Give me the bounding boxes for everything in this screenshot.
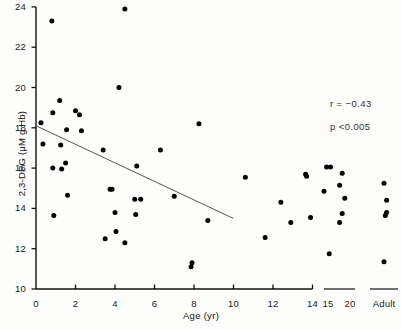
data-point bbox=[278, 200, 283, 205]
x-tick-label-10: 10 bbox=[221, 298, 247, 309]
data-point bbox=[50, 110, 55, 115]
x-tick-label-20: 20 bbox=[337, 298, 363, 309]
correlation-annotation: r = −0.43 bbox=[330, 98, 372, 109]
y-tick-label-16: 16 bbox=[4, 162, 26, 173]
data-point bbox=[205, 218, 210, 223]
x-tick-label-12: 12 bbox=[260, 298, 286, 309]
data-point bbox=[308, 215, 313, 220]
data-point bbox=[134, 164, 139, 169]
data-point bbox=[40, 141, 45, 146]
x-tick-label-8: 8 bbox=[181, 298, 207, 309]
y-tick-label-14: 14 bbox=[4, 202, 26, 213]
data-point bbox=[322, 189, 327, 194]
data-point bbox=[382, 181, 387, 186]
data-point bbox=[158, 147, 163, 152]
data-point bbox=[190, 260, 195, 265]
data-point bbox=[57, 98, 62, 103]
data-point bbox=[101, 147, 106, 152]
data-point bbox=[172, 194, 177, 199]
data-point bbox=[38, 120, 43, 125]
data-point bbox=[77, 112, 82, 117]
data-point bbox=[138, 197, 143, 202]
y-tick-label-22: 22 bbox=[4, 41, 26, 52]
data-point bbox=[196, 121, 201, 126]
y-tick-label-10: 10 bbox=[4, 283, 26, 294]
data-point bbox=[243, 175, 248, 180]
data-point bbox=[79, 128, 84, 133]
data-point bbox=[64, 127, 69, 132]
x-tick-label-2: 2 bbox=[63, 298, 89, 309]
data-point bbox=[50, 166, 55, 171]
data-point bbox=[133, 212, 138, 217]
data-point bbox=[122, 6, 127, 11]
data-point bbox=[113, 210, 118, 215]
scatter-plot-figure: 2,3-DPG (μM g Hb) Age (yr) r = −0.43 p <… bbox=[0, 0, 402, 330]
data-point bbox=[342, 196, 347, 201]
data-point bbox=[382, 259, 387, 264]
data-point bbox=[113, 229, 118, 234]
x-tick-label-adult: Adult bbox=[371, 298, 397, 309]
plot-canvas bbox=[0, 0, 402, 330]
data-point bbox=[327, 251, 332, 256]
data-point bbox=[49, 19, 54, 24]
x-axis-label: Age (yr) bbox=[0, 310, 402, 321]
y-tick-label-12: 12 bbox=[4, 243, 26, 254]
data-point bbox=[337, 183, 342, 188]
x-tick-label-0: 0 bbox=[23, 298, 49, 309]
regression-line bbox=[36, 126, 234, 219]
data-point bbox=[132, 197, 137, 202]
y-axis-label: 2,3-DPG (μM g Hb) bbox=[16, 89, 27, 219]
x-tick-label-6: 6 bbox=[142, 298, 168, 309]
y-tick-label-24: 24 bbox=[4, 1, 26, 12]
data-point bbox=[122, 240, 127, 245]
pvalue-annotation: p <0.005 bbox=[330, 121, 370, 132]
data-point bbox=[340, 211, 345, 216]
data-point bbox=[384, 198, 389, 203]
data-point bbox=[103, 236, 108, 241]
data-point bbox=[73, 108, 78, 113]
data-point bbox=[65, 193, 70, 198]
x-tick-label-4: 4 bbox=[102, 298, 128, 309]
data-point bbox=[59, 167, 64, 172]
data-point bbox=[304, 174, 309, 179]
data-point bbox=[51, 213, 56, 218]
y-tick-label-18: 18 bbox=[4, 122, 26, 133]
data-point bbox=[340, 171, 345, 176]
y-tick-label-20: 20 bbox=[4, 82, 26, 93]
data-point bbox=[383, 213, 388, 218]
data-point bbox=[263, 235, 268, 240]
data-point bbox=[116, 85, 121, 90]
data-point bbox=[58, 142, 63, 147]
data-point bbox=[110, 187, 115, 192]
data-point bbox=[288, 220, 293, 225]
data-point bbox=[328, 165, 333, 170]
data-point bbox=[63, 161, 68, 166]
data-point bbox=[337, 220, 342, 225]
